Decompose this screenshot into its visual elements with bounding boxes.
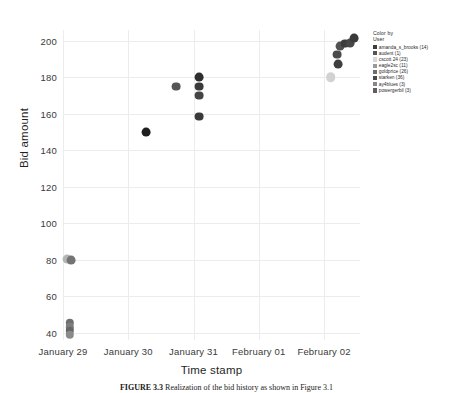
scatter-point [194,91,203,100]
legend-item[interactable]: amanda_s_brooks (14) [373,44,453,50]
legend-item[interactable]: cscott 24 (23) [373,57,453,63]
x-tick-label: January 30 [104,346,153,357]
y-tick-label: 40 [46,327,57,338]
plot-area [63,30,360,340]
y-tick-label: 180 [41,72,57,83]
legend-swatch [373,82,377,86]
y-tick-label: 160 [41,108,57,119]
legend-label: ay4blues (3) [379,82,405,87]
legend-label: audent (1) [379,51,401,56]
gridline-horizontal [63,223,360,224]
legend-label: powergerbil (3) [379,88,411,93]
x-tick-label: February 01 [232,346,285,357]
scatter-point [326,73,336,83]
legend-swatch [373,76,377,80]
x-tick-label: January 29 [38,346,87,357]
x-axis-tick-labels: January 29January 30January 31February 0… [63,346,360,360]
gridline-horizontal [63,41,360,42]
scatter-point [141,128,150,137]
gridline-horizontal [63,77,360,78]
legend-item[interactable]: starken (36) [373,75,453,81]
y-tick-label: 80 [46,254,57,265]
scatter-point [194,73,203,82]
figure-number: FIGURE 3.3 [120,383,163,392]
gridline-horizontal [63,114,360,115]
legend-swatch [373,45,377,49]
legend-swatch [373,88,377,92]
y-tick-label: 100 [41,218,57,229]
gridline-horizontal [63,296,360,297]
gridline-horizontal [63,260,360,261]
legend-swatch [373,57,377,61]
caption-text: Realization of the bid history as shown … [165,383,333,392]
legend-swatch [373,51,377,55]
legend-label: amanda_s_brooks (14) [379,45,428,50]
legend-title-line2: User [373,36,453,42]
legend-label: eagle2sc (11) [379,63,408,68]
legend-swatch [373,70,377,74]
scatter-point [194,82,203,91]
gridline-horizontal [63,187,360,188]
legend-item[interactable]: goldprice (26) [373,69,453,75]
y-tick-label: 140 [41,145,57,156]
legend-swatch [373,64,377,68]
scatter-point [333,50,342,59]
scatter-point [334,59,343,68]
y-tick-label: 60 [46,291,57,302]
scatter-point [350,34,359,43]
scatter-point [194,112,203,121]
legend-label: starken (36) [379,75,405,80]
x-axis-label: Time stamp [63,364,360,376]
scatter-point [65,330,73,338]
legend-items: amanda_s_brooks (14)audent (1)cscott 24 … [373,44,453,93]
gridline-vertical [128,30,129,340]
y-tick-label: 120 [41,181,57,192]
figure-caption: FIGURE 3.3 Realization of the bid histor… [0,383,453,392]
scatter-point [67,255,76,264]
gridline-horizontal [63,150,360,151]
legend-label: goldprice (26) [379,69,408,74]
gridline-horizontal [63,333,360,334]
figure-container: 406080100120140160180200 Bid amount Janu… [0,0,453,393]
y-axis-label: Bid amount [18,78,30,198]
legend-item[interactable]: ay4blues (3) [373,82,453,88]
x-tick-label: February 02 [297,346,350,357]
legend: Color by User amanda_s_brooks (14)audent… [373,30,453,94]
legend-label: cscott 24 (23) [379,57,408,62]
legend-item[interactable]: powergerbil (3) [373,88,453,94]
y-tick-label: 200 [41,35,57,46]
x-tick-label: January 31 [169,346,218,357]
legend-item[interactable]: eagle2sc (11) [373,63,453,69]
gridline-vertical [63,30,64,340]
legend-item[interactable]: audent (1) [373,51,453,57]
scatter-point [172,82,181,91]
gridline-vertical [259,30,260,340]
